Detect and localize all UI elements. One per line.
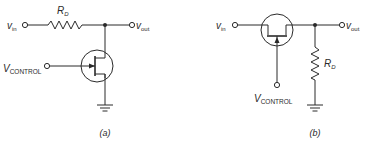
vin-label-a: vin [7, 20, 17, 32]
ground-icon-b [307, 105, 323, 111]
vcontrol-terminal-b [274, 82, 279, 87]
rd-label-b: RD [324, 58, 336, 70]
vcontrol-label-a: VCONTROL [3, 63, 42, 75]
vin-terminal-b [232, 22, 237, 27]
fet-source-b [262, 25, 268, 35]
circuit-a: vin RD vout VCONTROL (a) [3, 5, 150, 138]
jfet-drain-a [95, 54, 105, 58]
jfet-source-a [95, 74, 105, 78]
vout-label-b: vout [346, 20, 360, 32]
rd-label-a: RD [57, 5, 69, 17]
resistor-rd-b [311, 47, 319, 80]
vcontrol-label-b: VCONTROL [254, 93, 293, 105]
vin-label-b: vin [216, 20, 226, 32]
vout-label-a: vout [136, 20, 150, 32]
circuit-b: vin VCONTROL vout RD (b) [216, 14, 360, 138]
vout-terminal-b [339, 22, 344, 27]
circuit-figure: vin RD vout VCONTROL (a) [0, 0, 367, 143]
vin-terminal-a [22, 22, 27, 27]
ground-icon-a [97, 105, 113, 111]
fet-drain-b [286, 25, 292, 35]
gate-arrow-icon-b [275, 37, 280, 43]
caption-b: (b) [310, 128, 321, 138]
caption-a: (a) [100, 128, 111, 138]
vcontrol-terminal-a [44, 63, 49, 68]
resistor-rd-a [48, 21, 82, 29]
vout-terminal-a [129, 22, 134, 27]
gate-arrow-icon-a [89, 64, 95, 69]
